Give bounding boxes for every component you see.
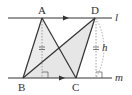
label-height-h: h: [102, 41, 108, 53]
label-d: D: [91, 4, 99, 16]
arrow-l-icon: [63, 16, 69, 21]
label-line-l: l: [115, 11, 118, 23]
geometry-diagram: A D B C l m h: [0, 0, 132, 95]
label-a: A: [38, 4, 46, 16]
label-c: C: [72, 81, 79, 93]
label-b: B: [18, 81, 25, 93]
label-line-m: m: [115, 71, 123, 83]
